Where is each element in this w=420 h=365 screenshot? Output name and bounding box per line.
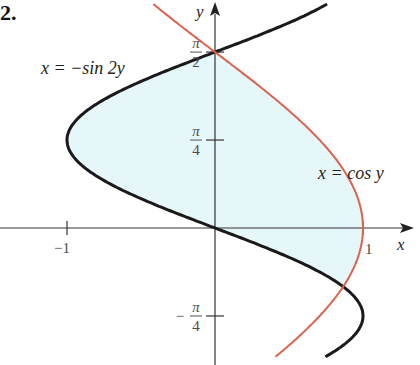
svg-text:−: − [176,308,184,324]
sine-curve-label: x = −sin 2y [40,58,125,78]
x-axis-label: x [396,235,405,254]
svg-text:π: π [192,35,200,51]
y-axis-arrow-icon [210,2,220,16]
svg-text:π: π [192,299,200,315]
svg-text:2: 2 [192,54,200,70]
y-tick-label: π4− [176,299,202,334]
x-tick-label-neg1: −1 [54,240,70,256]
svg-text:4: 4 [192,318,200,334]
problem-number: 2. [0,0,17,25]
svg-text:4: 4 [192,142,200,158]
graph-figure: 2. x = −sin 2y x = cos y x y −1 1 π2π4π4… [0,0,420,365]
x-tick-label-1: 1 [365,241,373,257]
cosine-curve-label: x = cos y [317,163,384,183]
svg-text:π: π [192,123,200,139]
y-axis-label: y [194,2,204,21]
